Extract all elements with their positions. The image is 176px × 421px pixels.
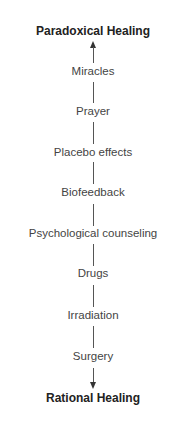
connector-line [93,244,94,266]
connector-line [93,82,94,103]
item-prayer: Prayer [0,104,176,118]
connector-line [93,47,94,63]
connector-line [93,326,94,348]
bottom-label: Rational Healing [0,391,176,405]
connector-line [93,368,94,383]
item-placebo-effects: Placebo effects [0,145,176,159]
connector-line [93,285,94,307]
connector-line [93,122,94,144]
item-irradiation: Irradiation [0,308,176,322]
connector-line [93,204,94,226]
item-biofeedback: Biofeedback [0,185,176,199]
arrow-down-icon [90,382,96,389]
item-miracles: Miracles [0,64,176,78]
item-psychological-counseling: Psychological counseling [0,226,176,240]
item-drugs: Drugs [0,266,176,280]
top-label: Paradoxical Healing [0,24,176,38]
connector-line [93,162,94,184]
item-surgery: Surgery [0,349,176,363]
